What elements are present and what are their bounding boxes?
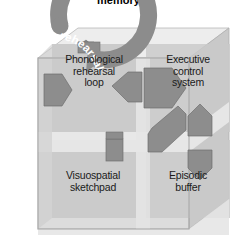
working-memory-diagram: memory [0,0,237,235]
diagram-canvas: Maintenance rehearsal [0,0,237,235]
arrow-visuospatial-up [106,139,123,161]
arrow-visuospatial-up-head [106,132,123,139]
cube-interior-left-wall [38,44,52,229]
